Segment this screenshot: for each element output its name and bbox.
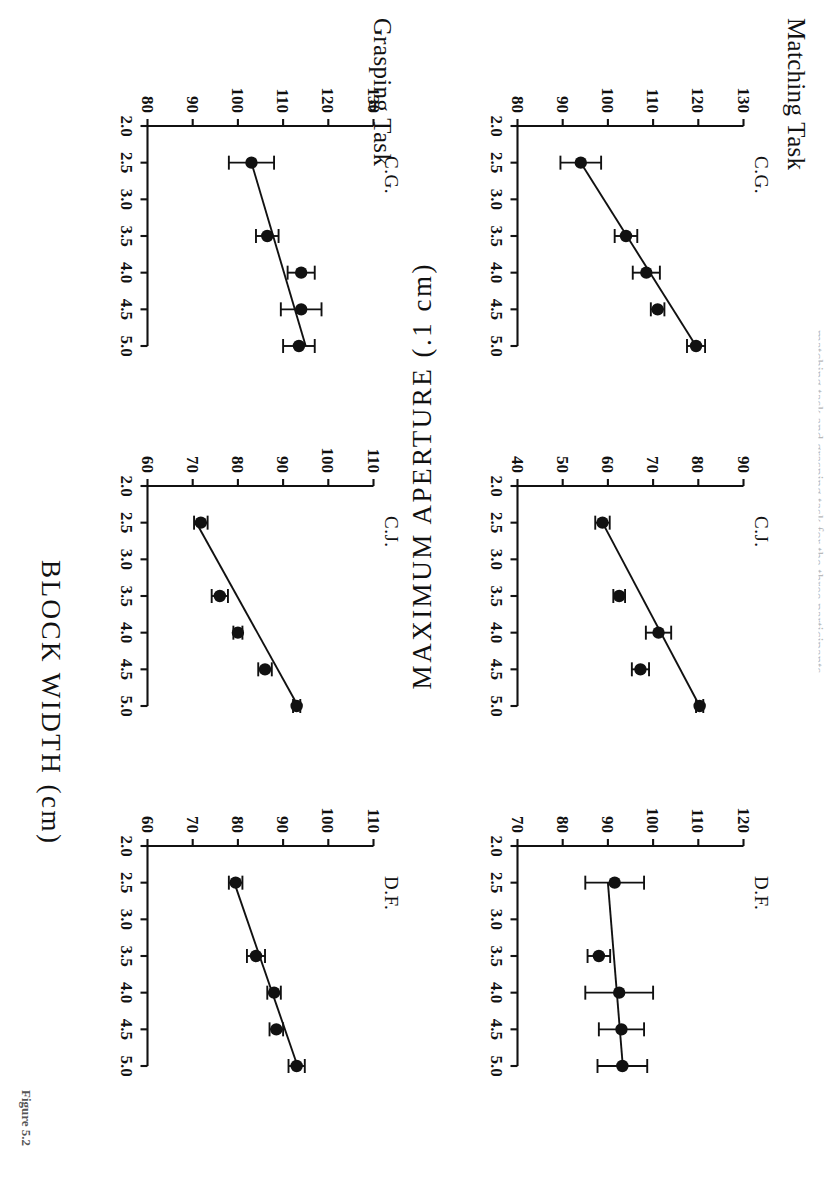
regression-line [196, 523, 298, 706]
x-tick-label: 5.0 [116, 1055, 135, 1076]
panel-subject-label: C.J. [379, 516, 401, 548]
y-tick-label: 120 [688, 88, 707, 114]
data-point-marker [613, 590, 625, 602]
data-point-marker [652, 626, 664, 638]
data-point-marker [693, 700, 705, 712]
y-tick-label: 130 [363, 88, 382, 114]
x-tick-label: 3.0 [486, 189, 505, 210]
y-tick-label: 90 [597, 816, 616, 833]
data-point-marker [258, 663, 270, 675]
x-tick-label: 2.5 [486, 512, 505, 533]
data-point-marker [651, 303, 663, 315]
x-tick-label: 4.0 [486, 982, 505, 1003]
x-tick-label: 3.0 [116, 189, 135, 210]
y-tick-label: 40 [507, 456, 526, 473]
axis-lines [517, 486, 743, 706]
x-tick-label: 4.0 [486, 262, 505, 283]
data-point-marker [290, 700, 302, 712]
regression-line [234, 883, 297, 1066]
y-tick-label: 90 [273, 456, 292, 473]
data-point-group [650, 302, 664, 316]
y-tick-label: 100 [643, 808, 662, 834]
data-point-group [560, 156, 601, 170]
y-tick-label: 100 [227, 88, 246, 114]
plot-area: 2.02.53.03.54.04.55.08090100110120130 [465, 60, 765, 360]
data-point-group [632, 266, 659, 280]
data-point-group [288, 1059, 304, 1073]
x-tick-label: 2.0 [116, 475, 135, 496]
x-tick-label: 2.0 [486, 835, 505, 856]
data-point-marker [249, 950, 261, 962]
y-tick-label: 80 [227, 456, 246, 473]
x-tick-label: 5.0 [486, 1055, 505, 1076]
x-tick-label: 4.5 [486, 299, 505, 320]
x-tick-label: 5.0 [486, 695, 505, 716]
data-point-group [614, 229, 637, 243]
data-point-group [687, 339, 705, 353]
data-point-marker [229, 876, 241, 888]
axis-lines [147, 486, 373, 706]
panel-grasping-task-cg: C.G.2.02.53.03.54.04.55.0809010011012013… [95, 60, 395, 360]
data-point-marker [292, 340, 304, 352]
x-tick-label: 4.5 [486, 659, 505, 680]
x-tick-label: 4.5 [116, 299, 135, 320]
y-tick-label: 70 [507, 816, 526, 833]
data-point-marker [619, 230, 631, 242]
regression-line [602, 523, 699, 706]
data-point-group [228, 876, 242, 890]
y-tick-label: 120 [733, 808, 752, 834]
data-point-group [269, 1022, 283, 1036]
figure-canvas: matching task and grasping task for the … [0, 0, 825, 1198]
data-point-marker [689, 340, 701, 352]
cut-off-header-text: matching task and grasping task for the … [818, 330, 825, 673]
x-axis-title: BLOCK WIDTH (cm) [34, 560, 65, 845]
data-point-marker [261, 230, 273, 242]
y-tick-label: 90 [733, 456, 752, 473]
figure-caption: Figure 5.2 [17, 1090, 33, 1146]
data-point-group [613, 589, 625, 603]
x-tick-label: 3.0 [486, 549, 505, 570]
panel-subject-label: C.G. [379, 156, 401, 194]
x-tick-label: 5.0 [116, 695, 135, 716]
panel-grasping-task-cj: C.J.2.02.53.03.54.04.55.060708090100110 [95, 420, 395, 720]
y-tick-label: 70 [182, 456, 201, 473]
regression-line [251, 163, 305, 346]
x-tick-label: 3.0 [116, 549, 135, 570]
x-tick-label: 3.5 [116, 945, 135, 966]
data-point-group [283, 339, 315, 353]
panel-subject-label: D.F. [379, 876, 401, 910]
x-tick-label: 2.0 [486, 115, 505, 136]
x-tick-label: 4.0 [116, 982, 135, 1003]
data-point-marker [194, 516, 206, 528]
panel-subject-label: D.F. [749, 876, 771, 910]
data-point-marker [592, 950, 604, 962]
y-tick-label: 100 [318, 448, 337, 474]
y-tick-label: 80 [137, 96, 156, 113]
data-point-group [598, 1022, 643, 1036]
axis-lines [517, 846, 743, 1066]
plot-area: 2.02.53.03.54.04.55.060708090100110 [95, 420, 395, 720]
x-tick-label: 4.5 [486, 1019, 505, 1040]
y-tick-label: 80 [507, 96, 526, 113]
data-point-marker [616, 1060, 628, 1072]
data-point-marker [640, 266, 652, 278]
x-tick-label: 3.0 [486, 909, 505, 930]
y-tick-label: 100 [597, 88, 616, 114]
panel-matching-task-df: D.F.2.02.53.03.54.04.55.0708090100110120 [465, 780, 765, 1080]
y-tick-label: 70 [643, 456, 662, 473]
task-label-matching: Matching Task [781, 18, 809, 170]
y-tick-label: 110 [363, 808, 382, 833]
y-tick-label: 60 [597, 456, 616, 473]
x-tick-label: 2.0 [116, 835, 135, 856]
x-tick-label: 4.0 [116, 262, 135, 283]
x-tick-label: 4.0 [486, 622, 505, 643]
x-tick-label: 2.5 [116, 152, 135, 173]
data-point-marker [634, 663, 646, 675]
y-tick-label: 110 [643, 88, 662, 113]
y-tick-label: 110 [688, 808, 707, 833]
data-point-group [597, 1059, 647, 1073]
data-point-marker [608, 876, 620, 888]
data-point-marker [270, 1023, 282, 1035]
panel-subject-label: C.G. [749, 156, 771, 194]
x-tick-label: 4.5 [116, 1019, 135, 1040]
